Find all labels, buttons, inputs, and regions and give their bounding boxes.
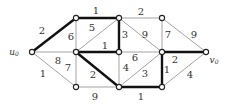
weighted-graph: 2816153297917246321491 u0v0: [0, 0, 226, 109]
edge-weight-label: 2: [138, 6, 144, 17]
edge-weight-label: 4: [123, 62, 129, 73]
edge-weight-label: 7: [65, 62, 71, 73]
edge-weight-label: 4: [187, 69, 193, 80]
edge-weight-label: 7: [165, 29, 171, 40]
node-G: [73, 84, 78, 89]
edge-weight-label: 6: [68, 31, 74, 42]
node-H: [116, 84, 121, 89]
edge-D-H: [76, 52, 119, 87]
edge-weight-label: 5: [89, 22, 95, 33]
edge-weight-label: 1: [93, 5, 99, 16]
node-E: [116, 49, 121, 54]
node-label-u0: u0: [9, 47, 19, 57]
edge-D-B: [76, 18, 119, 52]
node-label-v0: v0: [210, 55, 219, 65]
node-A: [73, 15, 78, 20]
edge-weight-label: 2: [39, 25, 45, 36]
edge-weight-label: 1: [102, 40, 108, 51]
edge-weight-label: 6: [132, 52, 138, 63]
edge-weight-label: 2: [172, 54, 178, 65]
edge-weight-label: 2: [90, 69, 96, 80]
edge-weight-label: 9: [191, 29, 197, 40]
edge-weight-label: 3: [142, 68, 148, 79]
edge-weight-label: 8: [55, 55, 61, 66]
edge-weight-label: 9: [92, 91, 98, 102]
node-v0: [203, 49, 208, 54]
edge-weight-label: 1: [40, 68, 46, 79]
node-u0: [29, 49, 34, 54]
edge-weight-label: 1: [138, 91, 144, 102]
node-I: [159, 84, 164, 89]
node-labels-layer: u0v0: [9, 47, 218, 65]
edge-weight-label: 1: [164, 64, 170, 75]
node-C: [159, 15, 164, 20]
edge-weight-label: 9: [142, 29, 148, 40]
edge-weight-label: 3: [122, 29, 128, 40]
node-F: [159, 49, 164, 54]
node-D: [73, 49, 78, 54]
node-B: [116, 15, 121, 20]
